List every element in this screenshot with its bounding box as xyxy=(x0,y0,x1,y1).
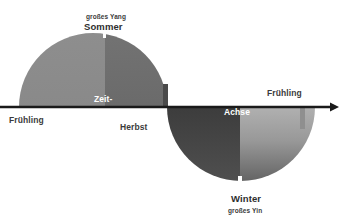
summer-right-tab xyxy=(163,84,168,107)
label-zeit-axis-part2: Achse xyxy=(224,107,250,117)
label-fruehling-left: Frühling xyxy=(9,115,44,125)
winter-semicircle xyxy=(166,105,316,185)
label-grosses-yin: großes Yin xyxy=(228,207,262,214)
label-zeit-axis-part1: Zeit- xyxy=(94,94,112,104)
winter-right-tab xyxy=(300,107,305,129)
summer-apex-notch xyxy=(103,33,106,38)
label-grosses-yang: großes Yang xyxy=(86,13,126,20)
yin-yang-seasons-diagram xyxy=(0,0,342,224)
label-winter: Winter xyxy=(231,193,261,204)
label-sommer: Sommer xyxy=(84,21,123,32)
label-fruehling-right: Frühling xyxy=(267,88,302,98)
axis-arrowhead-icon xyxy=(330,103,339,112)
diagram-canvas: großes Yang Sommer Frühling Herbst Frühl… xyxy=(0,0,342,224)
label-herbst: Herbst xyxy=(120,122,148,132)
winter-bottom-notch xyxy=(238,176,242,182)
